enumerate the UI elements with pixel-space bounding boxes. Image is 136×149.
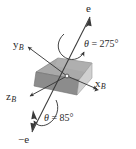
label-vector-e: e	[86, 3, 91, 14]
label-vector-negative-e: −e	[18, 134, 29, 145]
label-axis-y-base: y	[13, 38, 19, 50]
label-angle-top: θ = 275°	[84, 39, 119, 49]
label-axis-x-subscript: B	[101, 82, 106, 91]
label-axis-z-subscript: B	[11, 95, 16, 104]
label-axis-x-base: x	[95, 77, 101, 89]
label-angle-top-equals: =	[89, 38, 100, 49]
rotation-arc-bottom-head	[31, 110, 37, 121]
label-axis-z-body: zB	[6, 91, 16, 104]
rotation-axis-figure: e −e yB xB zB θ = 275° θ = 85°	[0, 0, 136, 149]
axis-arrowhead-positive	[85, 17, 91, 28]
label-angle-bottom: θ = 85°	[44, 113, 74, 123]
label-angle-bottom-value: 85°	[60, 112, 74, 123]
origin-point	[65, 74, 69, 78]
label-angle-top-value: 275°	[100, 38, 119, 49]
label-axis-y-subscript: B	[19, 43, 24, 52]
label-axis-y-body: yB	[13, 39, 24, 52]
label-axis-x-body: xB	[95, 78, 106, 91]
figure-canvas	[0, 0, 136, 149]
label-angle-bottom-equals: =	[49, 112, 60, 123]
rotation-arc-top	[58, 34, 84, 59]
